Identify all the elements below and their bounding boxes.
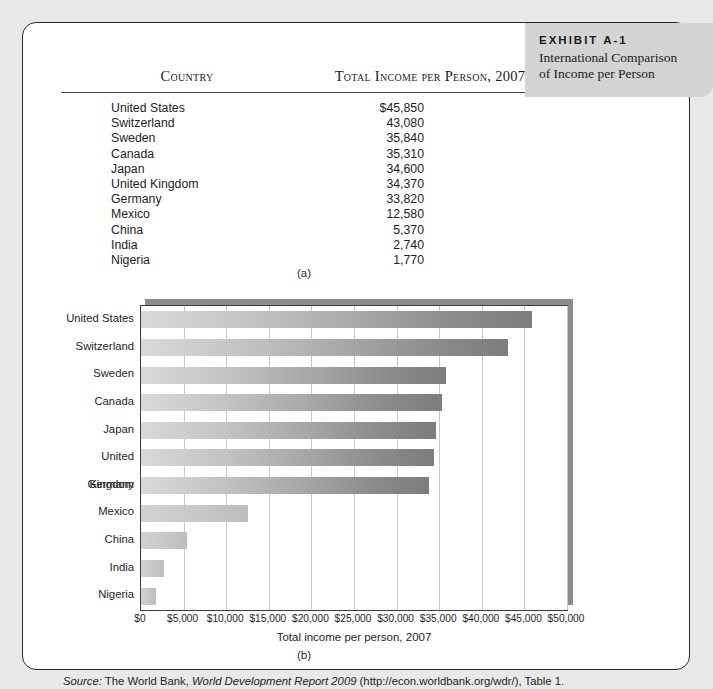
table-cell-income: 34,600 [313, 161, 547, 176]
table-header: Country Total Income per Person, 2007 [61, 68, 547, 93]
table-row: United Kingdom34,370 [61, 176, 547, 191]
table-cell-country: Sweden [61, 131, 313, 146]
source-report-title: World Development Report 2009 [192, 675, 357, 687]
table-cell-country: Switzerland [61, 116, 313, 131]
x-axis-label: $20,000 [292, 613, 329, 624]
bar-row [141, 389, 567, 417]
bar-row [141, 527, 567, 555]
y-axis-label: India [56, 554, 140, 582]
source-suffix: (http://econ.worldbank.org/wdr/), Table … [356, 675, 564, 687]
table-cell-income: 43,080 [313, 116, 547, 131]
y-axis-label: Germany [56, 471, 140, 499]
gridline [567, 306, 568, 610]
table-cell-income: 5,370 [313, 222, 547, 237]
table-cell-country: China [61, 222, 313, 237]
column-header-income: Total Income per Person, 2007 [313, 68, 547, 93]
table-cell-income: 35,840 [313, 131, 547, 146]
exhibit-title-line-2: of Income per Person [539, 66, 701, 82]
bar [141, 394, 442, 411]
table-cell-country: Canada [61, 146, 313, 161]
table-row: Germany33,820 [61, 192, 547, 207]
table-row: Sweden35,840 [61, 131, 547, 146]
table-row: Canada35,310 [61, 146, 547, 161]
y-axis-label: Canada [56, 388, 140, 416]
bar-row [141, 499, 567, 527]
source-note: Source: The World Bank, World Developmen… [63, 675, 564, 687]
table-row: Nigeria1,770 [61, 252, 547, 267]
plot-frame [140, 305, 568, 611]
sublabel-a: (a) [61, 267, 547, 279]
y-axis-label: China [56, 526, 140, 554]
x-axis-label: $40,000 [462, 613, 499, 624]
x-axis-label: $5,000 [167, 613, 198, 624]
source-prefix: Source: [63, 675, 102, 687]
bar [141, 367, 446, 384]
bar-row [141, 582, 567, 610]
exhibit-title-line-1: International Comparison [539, 50, 701, 66]
y-axis-label: Switzerland [56, 333, 140, 361]
y-axis-label: United States [56, 305, 140, 333]
table-cell-income: $45,850 [313, 93, 547, 116]
plot-area [141, 306, 567, 610]
bar-row [141, 306, 567, 334]
bar [141, 532, 187, 549]
x-axis-label: $15,000 [249, 613, 286, 624]
x-axis-label: $10,000 [207, 613, 244, 624]
table-row: Japan34,600 [61, 161, 547, 176]
x-axis-label: $25,000 [335, 613, 372, 624]
bar [141, 477, 429, 494]
income-table-block: Country Total Income per Person, 2007 Un… [61, 68, 547, 267]
exhibit-page-card: Country Total Income per Person, 2007 Un… [22, 22, 690, 670]
x-axis-label: $35,000 [420, 613, 457, 624]
table-cell-income: 33,820 [313, 192, 547, 207]
table-cell-income: 1,770 [313, 252, 547, 267]
bar [141, 339, 508, 356]
bar [141, 422, 436, 439]
source-publisher: The World Bank, [102, 675, 192, 687]
exhibit-callout: EXHIBIT A-1 International Comparison of … [525, 23, 713, 97]
table-row: United States$45,850 [61, 93, 547, 116]
bar [141, 560, 164, 577]
table-cell-country: Mexico [61, 207, 313, 222]
bar-row [141, 444, 567, 472]
x-axis-label: $30,000 [377, 613, 414, 624]
y-axis-label: Japan [56, 416, 140, 444]
bar-row [141, 361, 567, 389]
table-cell-country: United States [61, 93, 313, 116]
income-bar-chart: United StatesSwitzerlandSwedenCanadaJapa… [61, 299, 581, 639]
table-cell-country: Nigeria [61, 252, 313, 267]
column-header-country: Country [61, 68, 313, 93]
y-axis-labels: United StatesSwitzerlandSwedenCanadaJapa… [56, 305, 140, 611]
table-cell-country: United Kingdom [61, 176, 313, 191]
y-axis-label: Mexico [56, 498, 140, 526]
table-cell-country: Japan [61, 161, 313, 176]
y-axis-label: Nigeria [56, 581, 140, 609]
bar [141, 311, 532, 328]
table-body: United States$45,850Switzerland43,080Swe… [61, 93, 547, 268]
exhibit-title: International Comparison of Income per P… [539, 50, 701, 81]
bar [141, 505, 248, 522]
table-cell-income: 35,310 [313, 146, 547, 161]
x-axis-label: $45,000 [505, 613, 542, 624]
table-row: India2,740 [61, 237, 547, 252]
bar-row [141, 472, 567, 500]
table-row: China5,370 [61, 222, 547, 237]
table-cell-income: 2,740 [313, 237, 547, 252]
bar-row [141, 555, 567, 583]
bar [141, 449, 434, 466]
y-axis-label: Sweden [56, 360, 140, 388]
exhibit-number: EXHIBIT A-1 [539, 34, 701, 46]
bar-row [141, 334, 567, 362]
table-row: Mexico12,580 [61, 207, 547, 222]
x-axis-label: $50,000 [548, 613, 585, 624]
table-header-row: Country Total Income per Person, 2007 [61, 68, 547, 93]
table-cell-income: 34,370 [313, 176, 547, 191]
table-cell-country: India [61, 237, 313, 252]
y-axis-label: United Kingdom [56, 443, 140, 471]
bar [141, 588, 156, 605]
table-cell-income: 12,580 [313, 207, 547, 222]
sublabel-b: (b) [61, 649, 547, 661]
x-axis-labels: $0$5,000$10,000$15,000$20,000$25,000$30,… [140, 613, 568, 629]
x-axis-title: Total income per person, 2007 [140, 631, 568, 643]
table-cell-country: Germany [61, 192, 313, 207]
